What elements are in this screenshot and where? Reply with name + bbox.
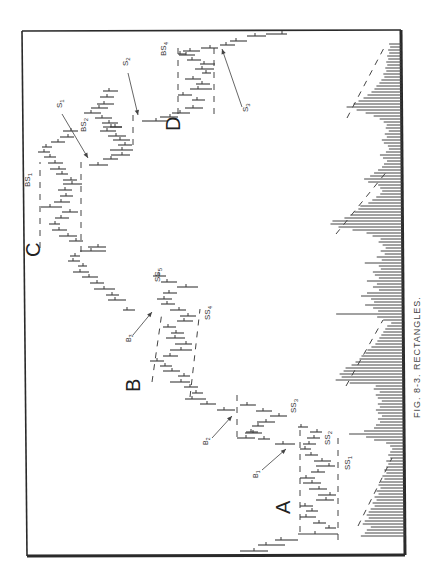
price-bar	[97, 101, 114, 104]
price-bar	[325, 525, 336, 528]
price-bar	[185, 105, 203, 108]
price-bar	[195, 66, 214, 69]
price-bar	[90, 280, 104, 283]
price-bar	[150, 358, 164, 361]
rect-B-high-dashed-line	[152, 312, 162, 382]
price-bar	[230, 38, 247, 41]
price-bar	[94, 286, 115, 289]
label-ss5: SS5	[153, 267, 163, 282]
price-bar	[103, 156, 118, 159]
price-bar	[217, 407, 235, 410]
price-bar	[100, 128, 116, 131]
price-bar	[41, 204, 62, 207]
price-bar	[113, 137, 130, 140]
price-bar	[298, 531, 338, 534]
volume-histogram	[330, 44, 404, 536]
label-b1: B1	[252, 470, 261, 478]
price-bar	[303, 441, 316, 444]
price-bar	[62, 209, 78, 212]
vol-trend-4-dashed-line	[358, 458, 392, 526]
price-bar	[300, 503, 313, 506]
label-s2: S2	[121, 57, 131, 66]
price-bar	[110, 147, 133, 150]
label-b3: B3	[125, 334, 134, 342]
b3-arrow-icon	[133, 312, 152, 335]
price-bar	[166, 335, 185, 338]
label-ss4: SS4	[203, 305, 213, 320]
price-bar	[200, 61, 215, 64]
price-bar	[103, 88, 118, 91]
s2-arrow-icon	[128, 73, 139, 115]
label-d: D	[162, 117, 184, 131]
price-bar	[56, 171, 68, 174]
price-bar	[73, 269, 89, 272]
label-ss2: SS2	[323, 430, 333, 445]
price-bar	[84, 110, 101, 113]
price-bar	[95, 115, 112, 118]
price-bar	[157, 296, 172, 299]
b2-arrow-icon	[212, 416, 232, 438]
price-bar	[190, 86, 212, 89]
price-bar	[300, 475, 315, 478]
figure-caption: FIG. 8-3. RECTANGLES.	[412, 296, 422, 418]
price-bar	[106, 292, 119, 295]
label-b: B	[122, 379, 144, 392]
price-bar	[170, 307, 186, 310]
price-bar	[270, 413, 287, 416]
price-bar	[183, 48, 200, 51]
price-bar	[88, 244, 106, 247]
price-bar	[305, 452, 318, 455]
label-c: C	[22, 243, 44, 257]
price-bar	[170, 379, 190, 382]
price-bar	[313, 520, 326, 523]
price-bar	[257, 419, 275, 422]
label-ss1: SS1	[343, 455, 353, 470]
price-bar	[163, 324, 176, 327]
price-bar	[50, 166, 66, 169]
price-bar	[185, 76, 201, 79]
price-bar	[256, 408, 272, 411]
price-bar	[318, 492, 336, 495]
rectangles-figure: ABCDS1S2S3BS1BS2BS4SS1SS2SS3SS4SS5B1B2B3…	[0, 0, 438, 577]
price-bar	[258, 436, 270, 439]
price-bar	[202, 70, 211, 73]
price-bar	[177, 318, 193, 321]
label-a: A	[272, 500, 294, 514]
price-bar	[171, 330, 184, 333]
price-bar	[102, 120, 118, 123]
price-bar	[63, 177, 77, 180]
price-bar	[220, 42, 235, 45]
label-bs2: BS2	[79, 117, 89, 132]
price-bar	[108, 297, 126, 300]
label-s1: S1	[55, 99, 65, 108]
price-bar	[177, 284, 198, 287]
price-bar	[163, 353, 178, 356]
price-bar	[111, 152, 130, 155]
price-bar	[178, 373, 190, 376]
price-bar	[54, 199, 70, 202]
annotation-labels: ABCDS1S2S3BS1BS2BS4SS1SS2SS3SS4SS5B1B2B3	[22, 41, 353, 514]
price-bar	[187, 57, 201, 60]
price-bar	[55, 215, 69, 218]
price-bar	[59, 233, 77, 236]
price-bar	[48, 160, 63, 163]
price-bar	[192, 97, 205, 100]
price-bar	[192, 390, 203, 393]
price-bar	[118, 142, 132, 145]
price-bar	[196, 81, 210, 84]
label-s3: S3	[241, 103, 251, 112]
price-bar	[44, 154, 56, 157]
frame-left	[22, 31, 27, 556]
price-bar	[172, 110, 190, 113]
price-bar	[178, 92, 192, 95]
price-bar	[160, 363, 172, 366]
frame-bottom	[27, 555, 405, 556]
price-bar	[163, 368, 180, 371]
price-bar	[316, 497, 334, 500]
price-bar	[310, 429, 322, 432]
price-bar	[108, 133, 126, 136]
price-bar	[82, 274, 98, 277]
price-bar	[60, 193, 73, 196]
price-bar	[100, 94, 114, 97]
price-bar	[246, 429, 258, 432]
